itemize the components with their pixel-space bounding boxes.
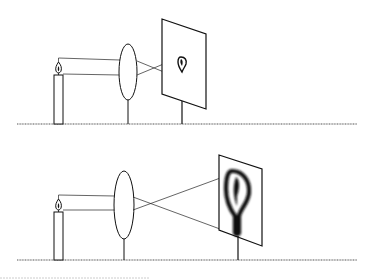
panel-top [17, 19, 357, 124]
lens-body [114, 171, 134, 239]
ray [133, 177, 223, 210]
candle-body [54, 75, 63, 124]
ray [63, 74, 120, 75]
candle [54, 62, 63, 124]
ray [59, 195, 116, 196]
optics-diagram [0, 0, 373, 280]
screen-panel [162, 19, 206, 109]
candle-body [54, 212, 63, 260]
lens-body [119, 44, 137, 100]
ray [59, 58, 121, 60]
candle [54, 199, 63, 260]
convex-lens [114, 171, 134, 260]
convex-lens [119, 44, 137, 124]
screen [219, 155, 262, 260]
panel-bottom [17, 155, 357, 260]
screen [162, 19, 206, 124]
ray [133, 197, 220, 229]
